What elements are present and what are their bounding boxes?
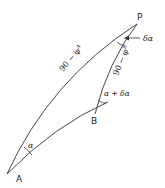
inner-side-label: 90 − φB [111, 44, 132, 77]
point-B-label: B [91, 116, 97, 126]
angle-B-label: α + δα [104, 89, 130, 98]
angle-A-label: α [28, 141, 34, 150]
angle-P-label: δα [143, 34, 154, 43]
angle-arc-B [98, 100, 106, 103]
spherical-triangle-diagram: P A B 90 − φA 90 − φB α α + δα δα [0, 0, 165, 188]
arc-A-P [7, 24, 137, 174]
arc-A-B [7, 102, 108, 174]
point-A-label: A [16, 174, 23, 184]
point-P-label: P [137, 12, 143, 22]
